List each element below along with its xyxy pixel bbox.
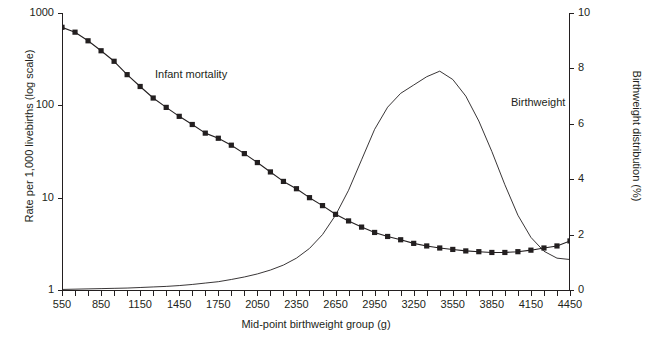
- data-point-marker: [85, 38, 90, 43]
- data-point-marker: [151, 95, 156, 100]
- x-axis-tick-label: 4450: [540, 299, 600, 310]
- x-axis-tick: [427, 291, 428, 296]
- data-point-marker: [190, 122, 195, 127]
- y-axis-left-title: Rate per 1,000 livebirths (log scale): [23, 11, 35, 261]
- x-axis-tick: [453, 291, 454, 296]
- data-point-marker: [372, 230, 377, 235]
- series-line-2: [62, 71, 570, 289]
- data-point-marker: [437, 245, 442, 250]
- x-axis-tick: [323, 291, 324, 296]
- data-point-marker: [125, 72, 130, 77]
- x-axis-tick: [257, 291, 258, 296]
- data-point-marker: [385, 234, 390, 239]
- x-axis-tick: [88, 291, 89, 296]
- data-point-marker: [450, 247, 455, 252]
- data-point-marker: [476, 249, 481, 254]
- data-point-marker: [98, 48, 103, 53]
- data-point-marker: [398, 237, 403, 242]
- x-axis-tick: [218, 291, 219, 296]
- y-axis-right-tick-label: 10: [578, 7, 590, 18]
- x-axis-tick: [179, 291, 180, 296]
- data-point-marker: [203, 131, 208, 136]
- x-axis-tick: [544, 291, 545, 296]
- data-point-marker: [502, 250, 507, 255]
- x-axis-tick: [296, 291, 297, 296]
- x-axis-tick: [309, 291, 310, 296]
- data-point-marker: [489, 250, 494, 255]
- data-point-marker: [138, 84, 143, 89]
- data-point-marker: [515, 249, 520, 254]
- x-axis-tick: [505, 291, 506, 296]
- x-axis-tick: [114, 291, 115, 296]
- data-point-marker: [242, 151, 247, 156]
- x-axis-tick: [349, 291, 350, 296]
- data-point-marker: [411, 241, 416, 246]
- x-axis-tick: [270, 291, 271, 296]
- x-axis-tick: [231, 291, 232, 296]
- data-point-marker: [72, 30, 77, 35]
- x-axis-tick: [62, 291, 63, 296]
- y-axis-right-tick: [570, 235, 574, 236]
- x-axis-tick: [557, 291, 558, 296]
- data-point-marker: [554, 243, 559, 248]
- series-label-birthweight: Birthweight: [511, 96, 565, 108]
- data-point-marker: [320, 203, 325, 208]
- y-axis-right-tick-label: 2: [578, 229, 584, 240]
- series-canvas: [62, 13, 570, 290]
- x-axis-tick: [570, 291, 571, 296]
- data-point-marker: [463, 248, 468, 253]
- data-point-marker: [62, 25, 65, 30]
- x-axis-tick: [440, 291, 441, 296]
- data-point-marker: [164, 105, 169, 110]
- data-point-marker: [255, 160, 260, 165]
- data-point-marker: [346, 218, 351, 223]
- x-axis-tick: [414, 291, 415, 296]
- x-axis-tick: [75, 291, 76, 296]
- y-axis-right-tick-label: 6: [578, 118, 584, 129]
- infant-mortality-birthweight-chart: 1101001000 0246810 550850115014501750205…: [0, 0, 646, 338]
- series-label-infant-mortality: Infant mortality: [155, 68, 227, 80]
- x-axis-tick: [518, 291, 519, 296]
- x-axis-tick: [401, 291, 402, 296]
- x-axis-tick: [101, 291, 102, 296]
- x-axis-tick: [375, 291, 376, 296]
- x-axis-spine: [62, 290, 570, 291]
- x-axis-tick: [153, 291, 154, 296]
- x-axis-tick: [166, 291, 167, 296]
- x-axis-tick: [244, 291, 245, 296]
- x-axis-tick: [388, 291, 389, 296]
- data-point-marker: [216, 136, 221, 141]
- x-axis-tick: [479, 291, 480, 296]
- y-axis-right-tick-label: 0: [578, 284, 584, 295]
- x-axis-tick: [362, 291, 363, 296]
- data-point-marker: [281, 179, 286, 184]
- x-axis-tick: [283, 291, 284, 296]
- data-point-marker: [294, 186, 299, 191]
- x-axis-tick: [492, 291, 493, 296]
- x-axis-tick: [140, 291, 141, 296]
- data-point-marker: [359, 225, 364, 230]
- data-point-marker: [424, 243, 429, 248]
- data-point-marker: [567, 238, 570, 243]
- y-axis-left-tick-label: 100: [36, 99, 54, 110]
- y-axis-right-tick: [570, 68, 574, 69]
- plot-area: [62, 13, 570, 290]
- y-axis-right-tick-label: 4: [578, 173, 584, 184]
- x-axis-tick: [466, 291, 467, 296]
- y-axis-right-tick-label: 8: [578, 62, 584, 73]
- x-axis-title: Mid-point birthweight group (g): [62, 318, 570, 330]
- x-axis-tick: [531, 291, 532, 296]
- x-axis-tick: [336, 291, 337, 296]
- data-point-marker: [229, 143, 234, 148]
- data-point-marker: [268, 169, 273, 174]
- y-axis-right-title: Birthweight distribution (%): [631, 11, 643, 261]
- x-axis-tick: [192, 291, 193, 296]
- data-point-marker: [177, 114, 182, 119]
- y-axis-right-tick: [570, 124, 574, 125]
- y-axis-left-tick-label: 1: [48, 284, 54, 295]
- data-point-marker: [528, 248, 533, 253]
- data-point-marker: [112, 59, 117, 64]
- x-axis-tick: [205, 291, 206, 296]
- y-axis-right-tick: [570, 179, 574, 180]
- y-axis-left-tick-label: 10: [42, 192, 54, 203]
